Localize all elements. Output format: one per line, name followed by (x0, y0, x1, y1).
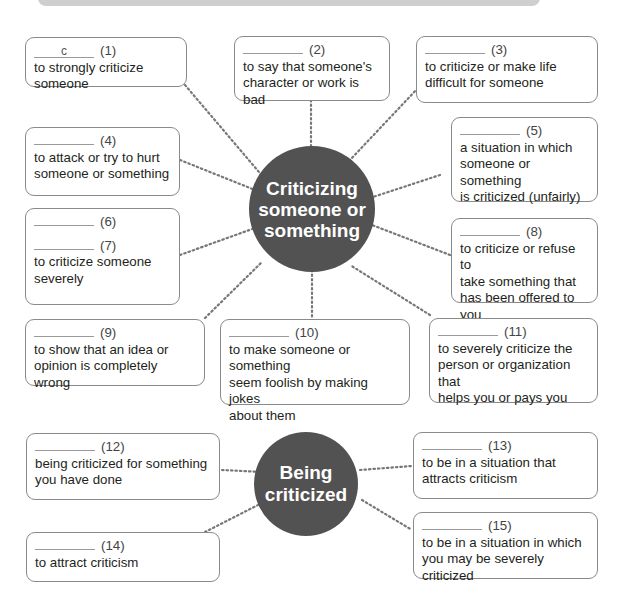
definition-line: character or work is bad (243, 75, 381, 108)
item-number: (3) (491, 42, 507, 57)
definition-line: to strongly criticize someone (34, 60, 178, 93)
hub-criticizing: Criticizing someone or something (249, 146, 375, 272)
term-box-13: (13) to be in a situation that attracts … (413, 432, 598, 499)
term-box-3: (3) to criticize or make life difficult … (416, 36, 598, 103)
item-number: (8) (526, 224, 542, 239)
definition-line: being criticized for something (35, 456, 211, 473)
term-box-14: (14) to attract criticism (26, 532, 220, 582)
item-number: (10) (295, 325, 319, 340)
item-number: (14) (101, 538, 125, 553)
answer-blank-1[interactable]: c (34, 46, 94, 58)
answer-blank-6[interactable] (34, 214, 94, 226)
item-number: (7) (100, 238, 116, 253)
definition-line: to criticize or make life (425, 59, 589, 76)
definition-line: take something that (460, 274, 589, 291)
definition-line: attracts criticism (422, 471, 589, 488)
item-number: (12) (101, 439, 125, 454)
answer-blank-2[interactable] (243, 42, 303, 54)
answer-blank-15[interactable] (422, 518, 482, 530)
item-number: (6) (100, 214, 116, 229)
item-number: (15) (488, 518, 512, 533)
definition-line: you have done (35, 472, 211, 489)
item-number: (5) (526, 123, 542, 138)
definition-line: to say that someone's (243, 59, 381, 76)
term-box-2: (2) to say that someone's character or w… (234, 36, 390, 101)
term-box-8: (8) to criticize or refuse to take somet… (451, 218, 598, 303)
definition-line: you may be severely criticized (422, 551, 589, 584)
answer-blank-3[interactable] (425, 42, 485, 54)
definition-line: is criticized (unfairly) (460, 189, 589, 206)
hub-being-criticized: Being criticized (254, 432, 358, 536)
term-box-11: (11) to severely criticize the person or… (429, 318, 598, 403)
answer-blank-7[interactable] (34, 238, 94, 250)
definition-line: helps you or pays you (438, 390, 589, 407)
definition-line: to show that an idea or (34, 342, 196, 359)
term-box-15: (15) to be in a situation in which you m… (413, 512, 598, 579)
definition-line: a situation in which (460, 140, 589, 157)
answer-blank-10[interactable] (229, 325, 289, 337)
answer-blank-4[interactable] (34, 133, 94, 145)
definition-line: to attack or try to hurt (34, 150, 171, 167)
item-number: (13) (488, 438, 512, 453)
answer-blank-11[interactable] (438, 324, 498, 336)
item-number: (2) (309, 42, 325, 57)
answer-blank-12[interactable] (35, 439, 95, 451)
definition-line: seem foolish by making jokes (229, 375, 401, 408)
hub-criticizing-line3: something (258, 220, 366, 241)
definition-line: someone or something (34, 166, 171, 183)
answer-blank-9[interactable] (34, 325, 94, 337)
item-number: (1) (100, 43, 116, 58)
definition-line: opinion is completely wrong (34, 358, 196, 391)
hub-being-line2: criticized (265, 484, 347, 506)
item-number: (11) (504, 324, 527, 339)
term-box-5: (5) a situation in which someone or some… (451, 117, 598, 202)
answer-blank-5[interactable] (460, 123, 520, 135)
answer-blank-8[interactable] (460, 224, 520, 236)
item-number: (9) (100, 325, 116, 340)
definition-line: someone or something (460, 156, 589, 189)
definition-line: to make someone or something (229, 342, 401, 375)
definition-line: difficult for someone (425, 75, 589, 92)
definition-line: to be in a situation that (422, 455, 589, 472)
definition-line: severely (34, 271, 171, 288)
term-box-4: (4) to attack or try to hurt someone or … (25, 127, 180, 196)
definition-line: to attract criticism (35, 555, 211, 572)
definition-line: about them (229, 408, 401, 425)
definition-line: person or organization that (438, 357, 589, 390)
term-box-1: c(1) to strongly criticize someone (25, 37, 187, 87)
hub-being-line1: Being (265, 462, 347, 484)
item-number: (4) (100, 133, 116, 148)
term-box-6-7: (6) (7) to criticize someone severely (25, 208, 180, 305)
definition-line: to severely criticize the (438, 341, 589, 358)
term-box-10: (10) to make someone or something seem f… (220, 319, 410, 405)
hub-criticizing-line2: someone or (258, 199, 366, 220)
term-box-9: (9) to show that an idea or opinion is c… (25, 319, 205, 386)
definition-line: to be in a situation in which (422, 535, 589, 552)
answer-blank-13[interactable] (422, 438, 482, 450)
answer-blank-14[interactable] (35, 538, 95, 550)
definition-line: to criticize or refuse to (460, 241, 589, 274)
term-box-12: (12) being criticized for something you … (26, 433, 220, 500)
definition-line: to criticize someone (34, 254, 171, 271)
hub-criticizing-line1: Criticizing (258, 178, 366, 199)
